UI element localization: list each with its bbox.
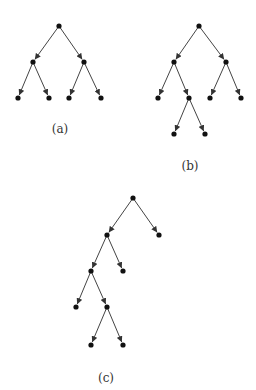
tree-node	[81, 59, 86, 64]
tree-node	[207, 95, 212, 100]
tree-node	[104, 304, 109, 309]
edge-arrow	[159, 62, 174, 95]
edge-arrow	[59, 26, 82, 59]
tree-node	[130, 195, 135, 200]
edge-arrow	[92, 307, 107, 342]
edge-arrow	[19, 62, 33, 95]
figure-label-a: (a)	[52, 122, 69, 136]
edge-arrow	[211, 62, 226, 95]
tree-b	[155, 23, 243, 136]
tree-diagrams	[0, 0, 256, 390]
tree-c	[73, 195, 161, 347]
tree-node	[186, 95, 191, 100]
tree-node	[98, 95, 103, 100]
tree-node	[202, 131, 207, 136]
edge-arrow	[176, 26, 199, 59]
tree-node	[171, 131, 176, 136]
tree-node	[88, 342, 93, 347]
tree-node	[196, 23, 201, 28]
edge-arrow	[92, 235, 107, 268]
tree-node	[88, 268, 93, 273]
tree-node	[15, 95, 20, 100]
tree-node	[238, 95, 243, 100]
tree-node	[46, 95, 51, 100]
tree-node	[56, 23, 61, 28]
edge-arrow	[199, 26, 224, 60]
edge-arrow	[33, 62, 48, 95]
tree-node	[223, 59, 228, 64]
edge-arrow	[189, 98, 204, 131]
tree-node	[120, 342, 125, 347]
tree-node	[73, 304, 78, 309]
edge-arrow	[107, 235, 122, 268]
tree-node	[156, 232, 161, 237]
edge-arrow	[70, 62, 84, 95]
edge-arrow	[107, 307, 122, 342]
edge-arrow	[77, 271, 91, 304]
edge-arrow	[226, 62, 240, 95]
edge-arrow	[133, 198, 157, 232]
tree-node	[155, 95, 160, 100]
edge-arrow	[84, 62, 100, 95]
tree-node	[104, 232, 109, 237]
edge-arrow	[35, 26, 59, 59]
tree-node	[66, 95, 71, 100]
edge-arrow	[109, 198, 133, 232]
edge-arrow	[91, 271, 106, 304]
edge-arrow	[174, 62, 188, 95]
figure-label-c: (c)	[98, 371, 114, 385]
tree-node	[171, 59, 176, 64]
edge-arrow	[175, 98, 189, 131]
tree-node	[120, 268, 125, 273]
figure-label-b: (b)	[181, 159, 198, 173]
tree-node	[30, 59, 35, 64]
tree-a	[15, 23, 103, 100]
